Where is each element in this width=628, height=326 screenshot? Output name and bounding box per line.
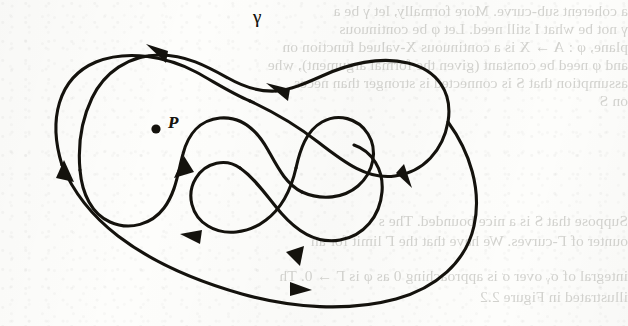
arrowhead-icon [290, 282, 312, 296]
arrowhead-icon [180, 230, 202, 244]
curve-label-gamma: γ [253, 6, 261, 28]
gamma-curve-path [56, 55, 477, 307]
arrowhead-icon [56, 160, 74, 182]
marked-point-dot [151, 124, 160, 133]
scanned-page: a coherent sub-curve. More formally, let… [0, 0, 628, 326]
arrowhead-icon [146, 44, 168, 63]
arrowhead-icon [286, 246, 304, 266]
point-label-p: P [168, 113, 178, 133]
curve-diagram-svg [0, 0, 628, 326]
arrowhead-icon [174, 156, 194, 178]
